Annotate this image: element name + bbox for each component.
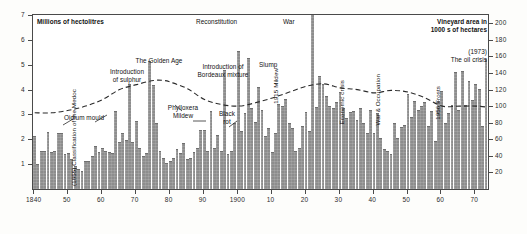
annotation-phylloxera-mildew: Phylloxera Mildew: [163, 104, 203, 119]
annotation-war: War: [283, 18, 295, 26]
left-axis-tick-label: 2: [21, 135, 25, 142]
annotation-1956-frosts: 1956 Frosts: [434, 86, 441, 120]
annotation-black-rot: Black rot: [215, 110, 239, 125]
left-axis-tick-label: 6: [21, 36, 25, 43]
left-axis-unit-label: Millions of hectolitres: [37, 18, 104, 26]
right-axis-tick: [489, 106, 493, 107]
x-axis-tick-label: 90: [199, 196, 207, 203]
annotation-medoc-classification: (1855) Classification of the Medoc: [70, 128, 78, 186]
x-axis-tick: [237, 190, 238, 194]
x-axis-tick-label: 60: [97, 196, 105, 203]
x-axis-tick: [474, 190, 475, 194]
right-axis-tick: [489, 56, 493, 57]
x-axis-tick-label: 20: [301, 196, 309, 203]
right-axis-tick-label: 120: [495, 86, 506, 93]
left-axis-tick: [28, 114, 32, 115]
x-axis-tick-label: 50: [63, 196, 71, 203]
x-axis-tick: [67, 190, 68, 194]
right-axis-tick-label: 60: [495, 135, 503, 142]
right-axis-tick: [489, 156, 493, 157]
right-axis-tick: [489, 139, 493, 140]
annotation-1915-mildew: 1915 Mildew: [272, 68, 279, 104]
x-axis-tick: [440, 190, 441, 194]
x-axis-tick-label: 80: [165, 196, 173, 203]
left-axis-tick: [28, 164, 32, 165]
annotation-oil-crisis: (1973) The oil crisis: [451, 48, 487, 63]
left-axis-tick: [28, 40, 32, 41]
right-axis-tick-label: 20: [495, 168, 503, 175]
left-axis-tick: [28, 139, 32, 140]
x-axis-tick: [101, 190, 102, 194]
left-axis-tick-label: 7: [21, 11, 25, 18]
annotation-leaders: [33, 15, 488, 189]
x-axis-tick: [373, 190, 374, 194]
left-axis-tick-label: 5: [21, 61, 25, 68]
left-axis-tick: [28, 90, 32, 91]
x-axis-tick: [33, 190, 34, 194]
right-axis-tick-label: 80: [495, 119, 503, 126]
chart-figure: 7654321 20018016014012010080604020 18405…: [0, 0, 527, 234]
right-axis-tick: [489, 73, 493, 74]
x-axis-tick: [169, 190, 170, 194]
right-axis-tick-label: 40: [495, 152, 503, 159]
x-axis-tick: [135, 190, 136, 194]
x-axis-tick: [339, 190, 340, 194]
x-axis-tick: [203, 190, 204, 194]
x-axis-tick: [407, 190, 408, 194]
right-axis-tick: [489, 40, 493, 41]
right-axis-tick: [489, 172, 493, 173]
left-axis-tick-label: 1: [21, 160, 25, 167]
right-axis-tick-label: 200: [495, 19, 506, 26]
x-axis-tick-label: 1900: [230, 196, 245, 203]
x-axis-tick-label: 1840: [26, 196, 41, 203]
x-axis-tick: [271, 190, 272, 194]
right-axis-tick-label: 100: [495, 102, 506, 109]
right-axis-tick: [489, 23, 493, 24]
x-axis-tick-label: 30: [335, 196, 343, 203]
x-axis-tick-label: 70: [131, 196, 139, 203]
left-axis-tick-label: 3: [21, 110, 25, 117]
x-axis-tick-label: 60: [436, 196, 444, 203]
annotation-bordeaux-mixture: Introduction of Bordeaux mixture: [190, 63, 256, 78]
right-axis-tick: [489, 90, 493, 91]
x-axis-tick-label: 50: [403, 196, 411, 203]
x-axis-tick-label: 70: [470, 196, 478, 203]
right-axis-tick: [489, 123, 493, 124]
left-axis-tick: [28, 65, 32, 66]
left-axis-tick: [28, 15, 32, 16]
x-axis-tick-label: 10: [267, 196, 275, 203]
x-axis-tick-label: 40: [369, 196, 377, 203]
annotation-golden-age: The Golden Age: [126, 57, 192, 65]
x-axis-tick: [305, 190, 306, 194]
annotation-introduction-of-sulphur: Introduction of sulphur: [102, 68, 152, 83]
right-axis-tick-label: 180: [495, 36, 506, 43]
right-axis-tick-label: 160: [495, 52, 506, 59]
annotation-reconstitution: Reconstitution: [196, 18, 237, 26]
right-axis-tick-label: 140: [495, 69, 506, 76]
annotation-economic-crisis: Economic crisis: [338, 80, 345, 124]
annotation-war-occupation: War & Occupation: [374, 74, 381, 126]
right-axis-unit-label: Vineyard area in 1000 s of hectares: [431, 18, 487, 33]
left-axis-tick-label: 4: [21, 86, 25, 93]
